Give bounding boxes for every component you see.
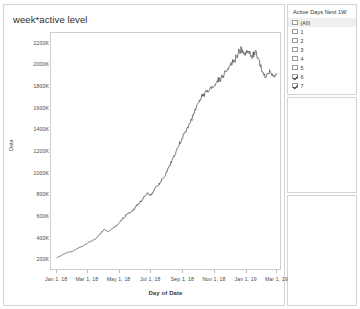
filter-item-6[interactable]: 6 <box>288 72 356 81</box>
y-axis-tick-label: 400K <box>36 235 49 241</box>
y-axis-tick-label: 1200K <box>33 148 49 154</box>
filter-item-1[interactable]: 1 <box>288 27 356 36</box>
x-axis-tick-label: Jul 1, 18 <box>140 276 161 282</box>
checkbox-icon[interactable] <box>292 20 298 26</box>
checkbox-checked-icon[interactable] <box>292 83 298 89</box>
checkbox-icon[interactable] <box>292 38 298 44</box>
y-axis-tick-label: 2000K <box>33 61 49 67</box>
empty-card-lower <box>287 195 357 306</box>
empty-card-upper <box>287 97 357 193</box>
x-axis-tick-mark <box>214 270 215 273</box>
filter-item-5[interactable]: 5 <box>288 63 356 72</box>
filter-item-label: 6 <box>301 74 304 80</box>
filter-item-3[interactable]: 3 <box>288 45 356 54</box>
x-axis-tick-mark <box>182 270 183 273</box>
y-axis-title: Data <box>8 140 14 151</box>
filter-item-4[interactable]: 4 <box>288 54 356 63</box>
y-axis: 2200K2000K1800K1600K1400K1200K1000K800K6… <box>22 32 49 270</box>
x-axis-tick-label: Sep 1, 18 <box>171 276 194 282</box>
filter-checkbox-list: (All)1234567 <box>288 18 356 94</box>
y-axis-tick-label: 2200K <box>33 40 49 46</box>
checkbox-icon[interactable] <box>292 56 298 62</box>
checkbox-icon[interactable] <box>292 65 298 71</box>
chart-title: week*active level <box>13 14 88 25</box>
y-axis-tick-label: 1800K <box>33 83 49 89</box>
filter-item-2[interactable]: 2 <box>288 36 356 45</box>
filter-item-all[interactable]: (All) <box>288 18 356 27</box>
x-axis-tick-mark <box>87 270 88 273</box>
x-axis-tick-label: Nov 1, 18 <box>202 276 225 282</box>
filter-item-label: 7 <box>301 83 304 89</box>
x-axis-tick-mark <box>56 270 57 273</box>
x-axis-tick-mark <box>276 270 277 273</box>
x-axis-tick-label: Mar 1, 19 <box>265 276 288 282</box>
filter-item-label: 5 <box>301 65 304 71</box>
series-line <box>57 46 277 257</box>
y-axis-tick-label: 200K <box>36 256 49 262</box>
y-axis-tick-label: 1000K <box>33 170 49 176</box>
y-axis-tick-label: 1600K <box>33 105 49 111</box>
checkbox-icon[interactable] <box>292 47 298 53</box>
chart-worksheet: week*active level Data 2200K2000K1800K16… <box>3 4 285 306</box>
y-axis-tick-label: 600K <box>36 213 49 219</box>
x-axis-tick-mark <box>246 270 247 273</box>
filter-item-label: 2 <box>301 38 304 44</box>
x-axis-title: Day of Date <box>50 290 281 296</box>
y-axis-tick-label: 800K <box>36 191 49 197</box>
filter-card-active-days-next-1w: Active Days Next 1W (All)1234567 <box>287 4 357 95</box>
x-axis: Jan 1, 18Mar 1, 18May 1, 18Jul 1, 18Sep … <box>50 270 281 286</box>
filter-item-label: 3 <box>301 47 304 53</box>
cards-column: Active Days Next 1W (All)1234567 <box>287 4 357 306</box>
plot-area <box>50 32 281 270</box>
checkbox-icon[interactable] <box>292 29 298 35</box>
x-axis-tick-label: Mar 1, 18 <box>75 276 98 282</box>
filter-item-7[interactable]: 7 <box>288 81 356 90</box>
filter-item-label: 4 <box>301 56 304 62</box>
filter-item-label: (All) <box>301 20 311 26</box>
line-chart-svg <box>51 33 280 269</box>
x-axis-tick-label: Jan 1, 19 <box>235 276 257 282</box>
x-axis-tick-mark <box>150 270 151 273</box>
checkbox-checked-icon[interactable] <box>292 74 298 80</box>
filter-card-title: Active Days Next 1W <box>288 5 356 18</box>
x-axis-tick-label: May 1, 18 <box>107 276 131 282</box>
y-axis-tick-label: 1400K <box>33 126 49 132</box>
filter-item-label: 1 <box>301 29 304 35</box>
tableau-worksheet-view: week*active level Data 2200K2000K1800K16… <box>0 0 360 309</box>
x-axis-tick-label: Jan 1, 18 <box>45 276 67 282</box>
x-axis-tick-mark <box>119 270 120 273</box>
